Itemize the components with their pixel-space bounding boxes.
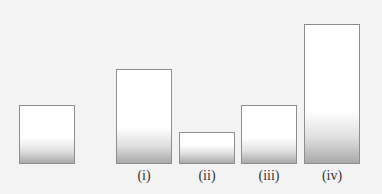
bar-iv (304, 24, 360, 164)
reference-bar (19, 105, 75, 164)
bar-i (116, 69, 172, 164)
bar-ii (179, 132, 235, 164)
label-i: (i) (116, 168, 172, 184)
label-ii: (ii) (179, 168, 235, 184)
label-iv: (iv) (304, 168, 360, 184)
diagram-canvas: (i) (ii) (iii) (iv) (0, 0, 382, 194)
label-iii: (iii) (241, 168, 297, 184)
bar-iii (241, 105, 297, 164)
